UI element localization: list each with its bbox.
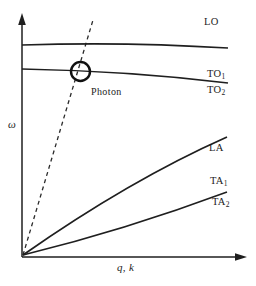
ta2-branch-label-text: TA (212, 196, 226, 207)
phonon-dispersion-diagram: LO TO1 TO2 LA TA1 TA2 Photon ω q, k (0, 0, 256, 286)
to1-branch-label-sub: 1 (221, 72, 225, 81)
to2-branch-label-sub: 2 (221, 88, 225, 97)
ta-branch-curve (23, 192, 227, 255)
ta2-branch-label: TA2 (212, 196, 230, 208)
lo-branch-curve (22, 44, 228, 48)
x-axis-label: q, k (117, 261, 134, 273)
ta2-branch-label-sub: 2 (226, 200, 230, 209)
la-branch-label: LA (209, 142, 224, 154)
ta1-branch-label-sub: 1 (224, 179, 228, 188)
photon-dashed-line (23, 20, 93, 255)
to1-branch-label-text: TO (207, 68, 221, 79)
lo-branch-label: LO (204, 16, 219, 28)
to2-branch-label-text: TO (207, 84, 221, 95)
to2-branch-label: TO2 (207, 84, 225, 96)
to1-branch-label: TO1 (207, 68, 225, 80)
ta1-branch-label: TA1 (210, 175, 228, 187)
lo-branch-label-text: LO (204, 16, 219, 27)
y-axis-label: ω (8, 118, 16, 130)
x-axis-arrowhead-icon (235, 253, 247, 261)
la-branch-curve (23, 137, 227, 255)
y-axis-arrowhead-icon (18, 13, 26, 25)
la-branch-label-text: LA (209, 142, 224, 153)
ta1-branch-label-text: TA (210, 175, 224, 186)
to-branch-curve (22, 69, 228, 83)
photon-annotation-label: Photon (91, 86, 122, 98)
